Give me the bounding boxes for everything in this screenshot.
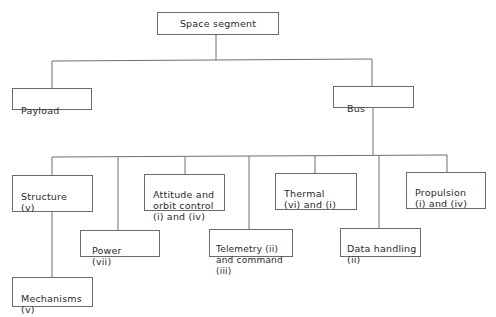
node-label: Thermal (vi) and (i) — [284, 188, 336, 210]
node-label: Space segment — [180, 18, 256, 29]
node-thermal: Thermal (vi) and (i) — [275, 173, 357, 210]
node-mechanisms: Mechanisms (v) — [12, 277, 93, 307]
node-label: Structure (v) — [21, 191, 67, 213]
node-telemetry-command: Telemetry (ii) and command (iii) — [209, 229, 293, 257]
node-propulsion: Propulsion (i) and (iv) — [406, 172, 486, 209]
node-space-segment: Space segment — [157, 12, 279, 35]
node-power: Power (vii) — [80, 230, 160, 257]
node-structure: Structure (v) — [12, 175, 93, 212]
space-segment-tree-diagram: Space segment Payload Bus Structure (v) … — [0, 0, 496, 317]
node-label: Payload — [21, 105, 59, 116]
node-label: Propulsion (i) and (iv) — [415, 187, 467, 209]
node-label: Bus — [347, 103, 365, 114]
node-data-handling: Data handling (ii) — [340, 228, 421, 257]
node-payload: Payload — [12, 88, 92, 110]
connector-lines — [0, 0, 496, 317]
node-attitude-orbit-control: Attitude and orbit control (i) and (iv) — [144, 174, 225, 211]
node-bus: Bus — [333, 86, 414, 108]
